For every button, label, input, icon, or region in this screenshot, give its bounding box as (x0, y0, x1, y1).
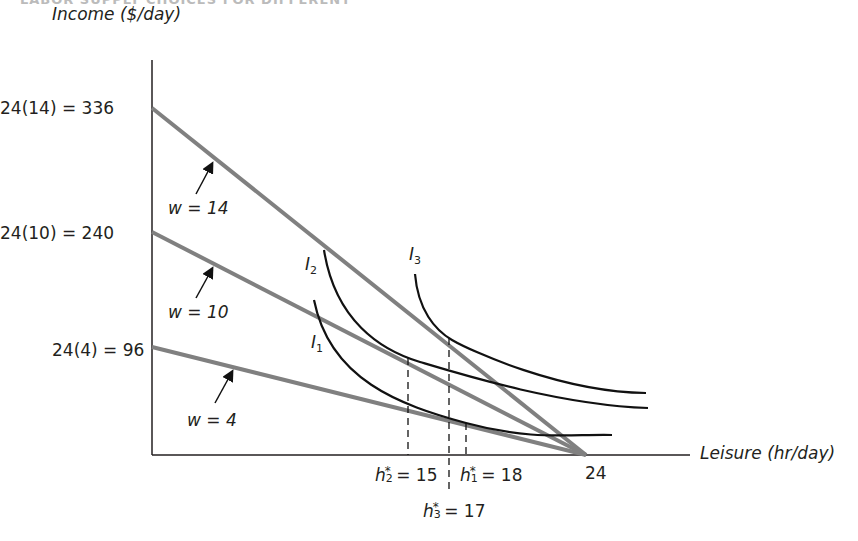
h3-value: = 17 (439, 501, 486, 521)
h3-subscript: 3 (434, 509, 441, 520)
label-i2-subscript: 2 (310, 264, 317, 277)
y-axis-title: Income ($/day) (52, 6, 181, 23)
indifference-curve-i2 (324, 250, 648, 408)
x-tick-24: 24 (585, 465, 607, 482)
h1-subscript: 1 (471, 473, 478, 484)
indifference-curve-i1 (314, 300, 612, 436)
label-w10: w = 10 (168, 304, 229, 321)
x-tick-h3: h*3 = 17 (423, 501, 485, 520)
arrow-w14-icon (196, 164, 212, 194)
y-tick-96: 24(4) = 96 (52, 342, 144, 359)
label-w14: w = 14 (168, 200, 229, 217)
label-i3-subscript: 3 (414, 254, 421, 267)
label-i1: I1 (311, 334, 323, 354)
label-i2: I2 (305, 256, 317, 276)
h2-value: = 15 (391, 465, 438, 485)
y-tick-336: 24(14) = 336 (0, 100, 114, 117)
h1-value: = 18 (476, 465, 523, 485)
label-i3: I3 (409, 246, 421, 266)
label-i1-subscript: 1 (316, 342, 323, 355)
arrow-w4-icon (215, 372, 232, 403)
x-tick-h2: h*2 = 15 (375, 465, 437, 484)
x-tick-h1: h*1 = 18 (460, 465, 522, 484)
y-tick-240: 24(10) = 240 (0, 225, 114, 242)
arrow-w10-icon (196, 269, 212, 298)
label-w4: w = 4 (187, 412, 237, 429)
x-axis-title: Leisure (hr/day) (700, 445, 835, 462)
h2-subscript: 2 (386, 473, 393, 484)
